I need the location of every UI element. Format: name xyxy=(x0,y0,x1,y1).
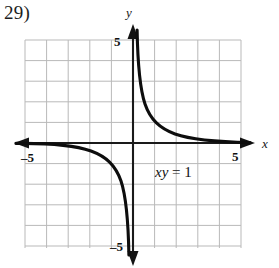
x-axis-tick-label-negative: –5 xyxy=(20,150,35,165)
hyperbola-branch-quadrant-1 xyxy=(137,30,250,143)
equation-annotation: xy = 1 xyxy=(154,164,192,180)
y-axis-tick-label-positive: 5 xyxy=(114,34,121,49)
equation-relation: = 1 xyxy=(168,164,191,180)
worksheet-page: 29) xyxy=(0,0,279,268)
x-axis-label: x xyxy=(261,136,268,151)
y-axis-tick-label-negative: –5 xyxy=(109,239,124,254)
svg-text:xy = 1: xy = 1 xyxy=(154,164,192,180)
coordinate-graph-figure: x y 5 –5 –5 5 xy = 1 xyxy=(0,0,279,268)
y-axis-label: y xyxy=(124,5,132,20)
equation-variables: xy xyxy=(154,164,169,180)
x-axis-tick-label-positive: 5 xyxy=(232,149,239,164)
